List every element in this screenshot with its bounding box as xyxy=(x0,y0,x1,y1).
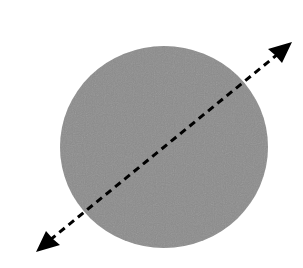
diagram-canvas xyxy=(0,0,303,268)
arrowhead-lower-left-icon xyxy=(36,231,60,252)
arrowhead-upper-right-icon xyxy=(268,42,292,63)
diagram-svg xyxy=(0,0,303,268)
